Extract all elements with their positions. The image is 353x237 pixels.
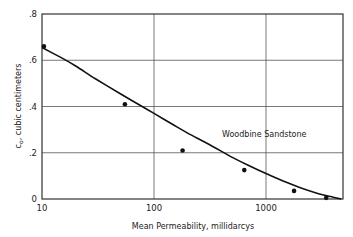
fitted-curve <box>42 48 341 200</box>
x-tick-label: 100 <box>146 203 162 213</box>
x-tick-label: 10 <box>37 203 48 213</box>
y-axis-label-rest: , cubic centimeters <box>14 64 23 141</box>
x-tick-label: 1000 <box>255 203 277 213</box>
x-axis-ticks: 101001000 <box>37 203 277 213</box>
data-point <box>242 168 247 173</box>
chart: 0.2.4.6.8 101001000 Woodbine Sandstone M… <box>0 0 353 237</box>
y-axis-label: co, cubic centimeters <box>14 64 24 149</box>
y-tick-label: .6 <box>29 55 37 65</box>
y-tick-label: .2 <box>29 148 37 158</box>
y-axis-ticks: 0.2.4.6.8 <box>29 9 37 204</box>
data-point <box>324 196 329 201</box>
y-tick-label: .8 <box>29 9 37 19</box>
y-tick-label: .4 <box>29 102 37 112</box>
data-point <box>123 102 128 107</box>
annotation-woodbine-sandstone: Woodbine Sandstone <box>222 130 307 139</box>
x-axis-label: Mean Permeability, millidarcys <box>132 222 254 231</box>
data-point <box>292 189 297 194</box>
data-point <box>42 44 47 49</box>
data-point <box>180 148 185 153</box>
grid-lines <box>42 14 343 199</box>
data-points <box>42 44 329 200</box>
